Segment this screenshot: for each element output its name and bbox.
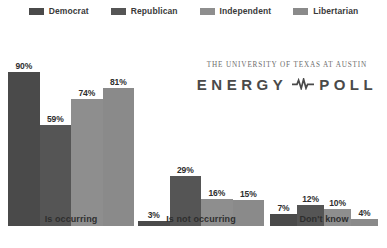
bar-rect (8, 72, 40, 226)
bar-rect (103, 88, 135, 227)
legend-label-independent: Independent (220, 7, 272, 16)
bar-libertarian-is-not-occurring[interactable]: 15% (233, 44, 265, 226)
legend-label-democrat: Democrat (49, 7, 89, 16)
bar-group-is-not-occurring: 3% 29% 16% 15% Is not occurring (138, 44, 264, 226)
bar-rect (40, 125, 72, 226)
bar-group-bars: 3% 29% 16% 15% (138, 44, 264, 226)
legend-label-republican: Republican (131, 7, 178, 16)
bar-independent-is-not-occurring[interactable]: 16% (201, 44, 233, 226)
bar-democrat-is-not-occurring[interactable]: 3% (138, 44, 170, 226)
bar-libertarian-dont-know[interactable]: 4% (351, 44, 378, 226)
bar-independent-is-occurring[interactable]: 74% (71, 44, 103, 226)
bar-democrat-is-occurring[interactable]: 90% (8, 44, 40, 226)
legend-item-democrat: Democrat (29, 7, 89, 16)
category-label-dont-know: Don't know (270, 214, 378, 224)
bar-republican-is-occurring[interactable]: 59% (40, 44, 72, 226)
bar-value-label: 7% (270, 204, 297, 213)
grouped-bar-chart: 90% 59% 74% 81% Is occurring 3% (0, 22, 387, 248)
legend-item-independent: Independent (200, 7, 272, 16)
legend-item-libertarian: Libertarian (293, 7, 358, 16)
legend-swatch-democrat (29, 8, 44, 15)
bar-value-label: 81% (103, 78, 135, 87)
bar-value-label: 15% (233, 190, 265, 199)
legend-swatch-libertarian (293, 8, 308, 15)
legend-item-republican: Republican (111, 7, 178, 16)
bar-group-bars: 7% 12% 10% 4% (270, 44, 378, 226)
bar-value-label: 12% (297, 195, 324, 204)
bar-republican-dont-know[interactable]: 12% (297, 44, 324, 226)
bar-value-label: 10% (324, 199, 351, 208)
legend-swatch-independent (200, 8, 215, 15)
legend-label-libertarian: Libertarian (313, 7, 358, 16)
bar-value-label: 29% (170, 166, 202, 175)
bar-value-label: 16% (201, 189, 233, 198)
bar-value-label: 74% (71, 89, 103, 98)
bar-independent-dont-know[interactable]: 10% (324, 44, 351, 226)
category-label-is-occurring: Is occurring (8, 214, 134, 224)
bar-democrat-dont-know[interactable]: 7% (270, 44, 297, 226)
bar-republican-is-not-occurring[interactable]: 29% (170, 44, 202, 226)
bar-group-bars: 90% 59% 74% 81% (8, 44, 134, 226)
bar-rect (71, 99, 103, 226)
bar-group-is-occurring: 90% 59% 74% 81% Is occurring (8, 44, 134, 226)
bar-libertarian-is-occurring[interactable]: 81% (103, 44, 135, 226)
chart-legend: Democrat Republican Independent Libertar… (0, 4, 387, 18)
bar-value-label: 59% (40, 115, 72, 124)
category-label-is-not-occurring: Is not occurring (138, 214, 264, 224)
legend-swatch-republican (111, 8, 126, 15)
bar-group-dont-know: 7% 12% 10% 4% Don't know (270, 44, 378, 226)
bar-value-label: 90% (8, 62, 40, 71)
